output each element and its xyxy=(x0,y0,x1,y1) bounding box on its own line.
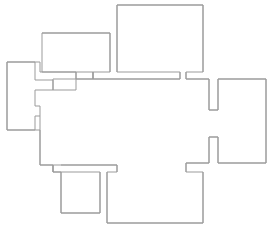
upper-left-room-path xyxy=(42,33,110,72)
bottom-center-room-path xyxy=(107,172,203,223)
upper-corridor-wall-far-right xyxy=(186,72,209,79)
lower-corridor-wall xyxy=(40,165,53,172)
upper-corridor-wall xyxy=(76,72,93,79)
floor-plan-svg xyxy=(0,0,274,231)
lower-corridor-wall-mid xyxy=(61,165,117,172)
floor-plan-canvas xyxy=(0,0,274,231)
right-block-path xyxy=(186,79,266,172)
upper-corridor-wall-right xyxy=(93,72,180,79)
main-outline-path xyxy=(7,5,266,223)
bottom-left-room-path xyxy=(61,172,100,213)
